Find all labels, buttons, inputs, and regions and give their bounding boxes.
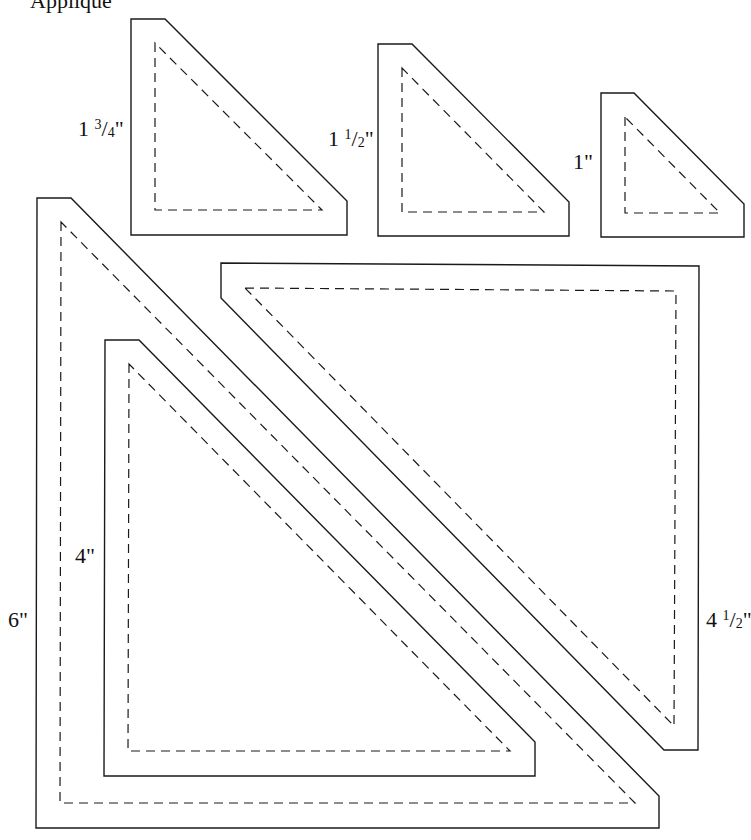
label-1-3-4-inch: 1 3/4" bbox=[78, 118, 124, 140]
label-denominator: 2 bbox=[736, 616, 743, 631]
triangle-6-inch bbox=[36, 198, 659, 828]
sewing-line bbox=[128, 364, 510, 751]
sewing-line bbox=[60, 222, 635, 803]
label-whole: 4 bbox=[706, 607, 717, 632]
label-4-1-2-inch: 4 1/2" bbox=[706, 609, 751, 631]
label-whole: 1 bbox=[78, 116, 89, 141]
label-6-inch: 6" bbox=[8, 609, 28, 631]
label-4-inch: 4" bbox=[75, 545, 95, 567]
label-1-1-2-inch: 1 1/2" bbox=[328, 128, 374, 150]
label-whole: 1 bbox=[328, 126, 339, 151]
triangle-4-1-2-inch bbox=[221, 263, 699, 750]
triangle-1-3-4-inch bbox=[131, 19, 347, 235]
label-1-inch: 1" bbox=[573, 151, 593, 173]
label-unit: " bbox=[115, 116, 124, 141]
sewing-line bbox=[402, 68, 544, 212]
label-numerator: 1 bbox=[723, 608, 730, 623]
label-unit: " bbox=[365, 126, 374, 151]
cutting-line bbox=[36, 198, 659, 828]
triangle-4-inch bbox=[104, 340, 535, 776]
triangle-1-1-2-inch bbox=[378, 44, 569, 236]
triangle-1-inch bbox=[601, 93, 744, 237]
label-numerator: 1 bbox=[345, 127, 352, 142]
label-denominator: 2 bbox=[358, 135, 365, 150]
label-denominator: 4 bbox=[108, 125, 115, 140]
label-unit: " bbox=[743, 607, 751, 632]
sewing-line bbox=[155, 43, 322, 210]
label-numerator: 3 bbox=[95, 117, 102, 132]
sewing-line bbox=[245, 288, 676, 726]
